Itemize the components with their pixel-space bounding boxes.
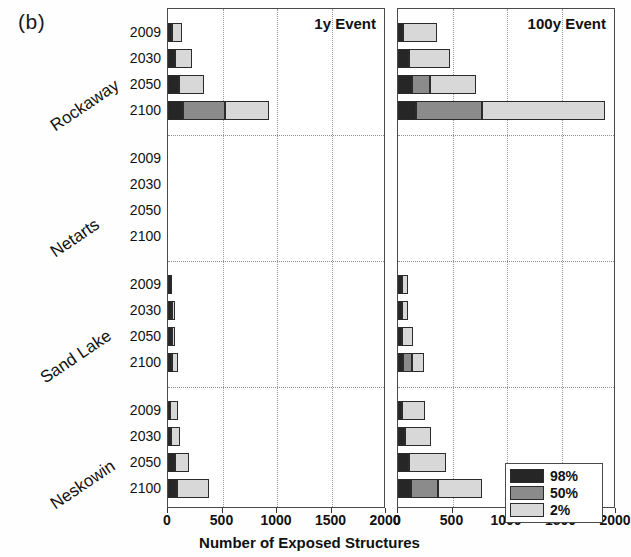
bar-segment-98 bbox=[398, 479, 411, 498]
x-tick-label: 0 bbox=[163, 512, 171, 528]
bar-segment-2 bbox=[175, 49, 192, 68]
y-tick-label: 2050 bbox=[115, 454, 161, 470]
bar-segment-2 bbox=[412, 353, 423, 372]
gridline-horizontal bbox=[168, 135, 384, 136]
legend-item: 2% bbox=[510, 502, 598, 518]
bar-segment-2 bbox=[172, 327, 175, 346]
bar-segment-2 bbox=[225, 101, 269, 120]
gridline-horizontal bbox=[168, 261, 384, 262]
y-tick-label: 2050 bbox=[115, 202, 161, 218]
x-tick-label: 500 bbox=[440, 512, 463, 528]
bar-segment-2 bbox=[175, 453, 189, 472]
bar-segment-2 bbox=[482, 101, 605, 120]
bar-segment-2 bbox=[430, 75, 477, 94]
bar-segment-98 bbox=[168, 479, 177, 498]
bar-segment-98 bbox=[168, 275, 172, 294]
bar-segment-98 bbox=[168, 75, 179, 94]
gridline-vertical bbox=[562, 9, 563, 507]
bar-segment-98 bbox=[398, 49, 409, 68]
figure-panel-label: (b) bbox=[18, 10, 45, 34]
bar-segment-2 bbox=[172, 301, 175, 320]
bar-segment-50 bbox=[412, 75, 429, 94]
bar-segment-2 bbox=[402, 275, 408, 294]
y-tick-label: 2009 bbox=[115, 24, 161, 40]
gridline-vertical bbox=[223, 9, 224, 507]
bar-segment-2 bbox=[405, 427, 432, 446]
group-label-rockaway: Rockaway bbox=[47, 76, 123, 136]
bar-segment-2 bbox=[172, 23, 182, 42]
bar-segment-2 bbox=[402, 327, 413, 346]
y-tick-label: 2009 bbox=[115, 150, 161, 166]
bar-segment-98 bbox=[398, 75, 412, 94]
legend-swatch-s98 bbox=[510, 469, 544, 483]
gridline-horizontal bbox=[398, 387, 614, 388]
bar-segment-2 bbox=[177, 479, 209, 498]
gridline-horizontal bbox=[398, 261, 614, 262]
plot-panel-100y: 100y Event bbox=[397, 8, 615, 508]
legend-item: 98% bbox=[510, 468, 598, 484]
bar-segment-2 bbox=[171, 427, 180, 446]
legend-label: 98% bbox=[550, 468, 578, 484]
y-tick-label: 2050 bbox=[115, 328, 161, 344]
bar-segment-98 bbox=[168, 101, 183, 120]
plot-panel-1y: 1y Event bbox=[167, 8, 385, 508]
legend-label: 2% bbox=[550, 502, 570, 518]
y-tick-label: 2030 bbox=[115, 302, 161, 318]
x-tick-label: 1000 bbox=[260, 512, 291, 528]
legend-label: 50% bbox=[550, 485, 578, 501]
legend: 98%50%2% bbox=[505, 463, 603, 523]
legend-swatch-s2 bbox=[510, 503, 544, 517]
legend-swatch-s50 bbox=[510, 486, 544, 500]
gridline-vertical bbox=[277, 9, 278, 507]
panel-title-100y: 100y Event bbox=[528, 15, 606, 32]
bar-segment-50 bbox=[411, 479, 438, 498]
bar-segment-98 bbox=[168, 49, 175, 68]
bar-segment-50 bbox=[403, 353, 412, 372]
bar-segment-2 bbox=[172, 353, 178, 372]
y-tick-label: 2030 bbox=[115, 428, 161, 444]
y-tick-label: 2100 bbox=[115, 228, 161, 244]
y-tick-label: 2100 bbox=[115, 354, 161, 370]
bar-segment-50 bbox=[183, 101, 225, 120]
group-label-neskowin: Neskowin bbox=[47, 456, 119, 514]
bar-segment-2 bbox=[179, 75, 204, 94]
bar-segment-2 bbox=[402, 401, 425, 420]
legend-item: 50% bbox=[510, 485, 598, 501]
bar-segment-2 bbox=[409, 49, 450, 68]
y-tick-label: 2100 bbox=[115, 102, 161, 118]
gridline-horizontal bbox=[398, 135, 614, 136]
gridline-vertical bbox=[332, 9, 333, 507]
bar-segment-98 bbox=[398, 101, 416, 120]
y-tick-label: 2009 bbox=[115, 276, 161, 292]
y-tick-label: 2100 bbox=[115, 480, 161, 496]
y-tick-label: 2009 bbox=[115, 402, 161, 418]
gridline-vertical bbox=[507, 9, 508, 507]
bar-segment-2 bbox=[403, 23, 437, 42]
bar-segment-2 bbox=[402, 301, 408, 320]
y-tick-label: 2030 bbox=[115, 50, 161, 66]
bar-segment-98 bbox=[398, 453, 409, 472]
bar-segment-2 bbox=[170, 401, 178, 420]
x-tick-label: 1500 bbox=[315, 512, 346, 528]
x-axis-title: Number of Exposed Structures bbox=[0, 534, 619, 551]
x-tick-label: 500 bbox=[210, 512, 233, 528]
panel-title-1y: 1y Event bbox=[314, 15, 376, 32]
bar-segment-2 bbox=[438, 479, 483, 498]
bar-segment-2 bbox=[409, 453, 446, 472]
bar-segment-50 bbox=[416, 101, 482, 120]
y-tick-label: 2030 bbox=[115, 176, 161, 192]
group-label-netarts: Netarts bbox=[47, 215, 104, 262]
x-tick-label: 2000 bbox=[599, 512, 630, 528]
group-label-sand-lake: Sand Lake bbox=[37, 326, 116, 388]
gridline-horizontal bbox=[168, 387, 384, 388]
x-tick-label: 0 bbox=[393, 512, 401, 528]
